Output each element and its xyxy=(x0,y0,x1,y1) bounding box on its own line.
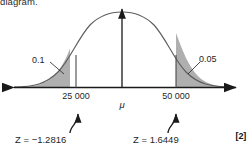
right-z-value-label: Z = 1.6449 xyxy=(133,134,179,145)
axis-label-25000: 25 000 xyxy=(62,91,90,101)
left-probability-label: 0.1 xyxy=(32,55,45,65)
diagram-stage: diagram. xyxy=(0,0,250,147)
marks-allocation: [2] xyxy=(236,131,246,141)
normal-distribution-figure: 0.1 0.05 25 000 50 000 μ Z = −1.2816 Z =… xyxy=(0,0,250,147)
mean-symbol-label: μ xyxy=(118,99,125,110)
normal-curve xyxy=(14,12,234,87)
left-z-value-label: Z = −1.2816 xyxy=(15,134,66,145)
right-callout-arrow xyxy=(168,114,176,133)
left-callout-arrow xyxy=(70,114,78,133)
right-probability-label: 0.05 xyxy=(199,54,217,64)
axis-label-50000: 50 000 xyxy=(162,91,190,101)
